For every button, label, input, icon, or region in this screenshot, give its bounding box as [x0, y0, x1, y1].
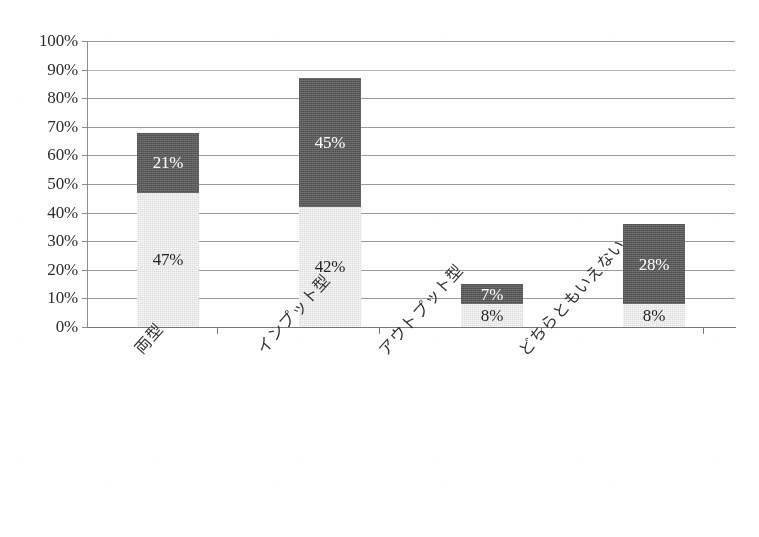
- ytick-label-60: 60%: [47, 145, 78, 165]
- ytick-label-90: 90%: [47, 59, 78, 79]
- ytick-100: [82, 41, 88, 42]
- ytick-label-20: 20%: [47, 259, 78, 279]
- bar-group-2[interactable]: 8% 7%: [461, 41, 523, 327]
- bar-value-lower-2: 8%: [481, 307, 503, 324]
- bar-value-lower-1: 42%: [315, 258, 346, 275]
- ytick-60: [82, 155, 88, 156]
- bar-segment-lower-2[interactable]: 8%: [461, 304, 523, 327]
- bar-value-lower-3: 8%: [643, 307, 665, 324]
- ytick-0: [82, 327, 88, 328]
- bar-value-upper-3: 28%: [639, 256, 670, 273]
- bar-value-upper-1: 45%: [315, 134, 346, 151]
- scanned-page: 100% 90% 80% 70% 60% 50% 40% 30% 20% 10%…: [0, 0, 759, 537]
- bar-segment-upper-1[interactable]: 45%: [299, 78, 361, 207]
- ytick-30: [82, 241, 88, 242]
- ytick-label-50: 50%: [47, 174, 78, 194]
- xtick-2: [379, 327, 380, 334]
- xtick-4: [703, 327, 704, 334]
- ytick-90: [82, 70, 88, 71]
- bar-segment-lower-3[interactable]: 8%: [623, 304, 685, 327]
- bar-value-upper-0: 21%: [153, 154, 184, 171]
- bar-segment-upper-3[interactable]: 28%: [623, 224, 685, 304]
- ytick-label-40: 40%: [47, 202, 78, 222]
- bar-group-3[interactable]: 8% 28%: [623, 41, 685, 327]
- ytick-label-70: 70%: [47, 116, 78, 136]
- ytick-label-10: 10%: [47, 288, 78, 308]
- ytick-label-80: 80%: [47, 88, 78, 108]
- ytick-label-100: 100%: [39, 31, 78, 51]
- ytick-20: [82, 270, 88, 271]
- bar-value-upper-2: 7%: [481, 286, 503, 303]
- xtick-1: [217, 327, 218, 334]
- bar-segment-upper-0[interactable]: 21%: [137, 133, 199, 193]
- plot-area: 100% 90% 80% 70% 60% 50% 40% 30% 20% 10%…: [88, 41, 735, 327]
- bar-segment-lower-0[interactable]: 47%: [137, 193, 199, 327]
- ytick-50: [82, 184, 88, 185]
- ytick-80: [82, 98, 88, 99]
- ytick-10: [82, 298, 88, 299]
- bar-segment-upper-2[interactable]: 7%: [461, 284, 523, 304]
- ytick-40: [82, 213, 88, 214]
- ytick-label-0: 0%: [56, 317, 78, 337]
- ytick-label-30: 30%: [47, 231, 78, 251]
- ytick-70: [82, 127, 88, 128]
- bar-value-lower-0: 47%: [153, 251, 184, 268]
- bar-group-0[interactable]: 47% 21%: [137, 41, 199, 327]
